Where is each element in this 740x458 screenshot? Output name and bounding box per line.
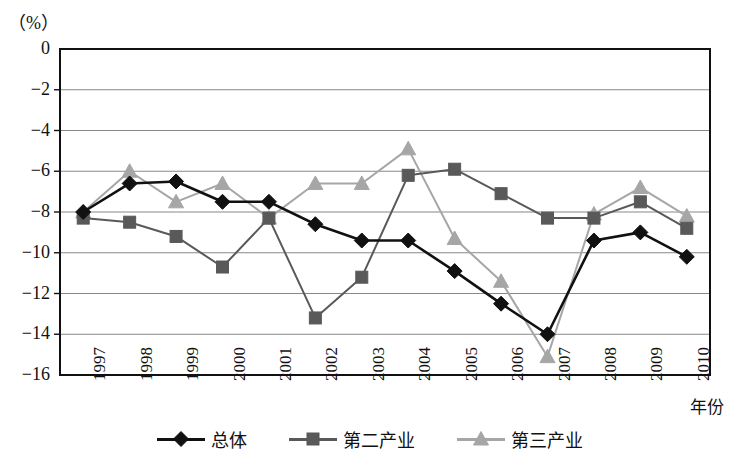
data-point-marker <box>122 176 137 191</box>
x-axis-title: 年份 <box>690 393 724 418</box>
data-point-marker <box>401 141 416 155</box>
data-point-marker <box>354 233 369 248</box>
square-marker <box>402 169 414 181</box>
triangle-marker <box>215 176 230 190</box>
triangle-marker <box>401 141 416 155</box>
x-axis-tick-label: 1999 <box>184 347 201 381</box>
square-marker <box>542 212 554 224</box>
x-axis-tick-label: 2010 <box>695 347 712 381</box>
data-point-marker <box>588 212 600 224</box>
data-point-marker <box>170 230 182 242</box>
data-point-marker <box>356 271 368 283</box>
x-axis-tick-label: 1997 <box>91 347 108 381</box>
square-marker <box>634 196 646 208</box>
square-marker <box>495 188 507 200</box>
triangle-marker <box>169 194 184 208</box>
diamond-marker <box>174 432 189 447</box>
legend-label: 总体 <box>209 426 247 452</box>
diamond-marker <box>633 225 648 240</box>
square-marker <box>170 230 182 242</box>
x-axis-tick-label: 2000 <box>231 347 248 381</box>
plot-area <box>0 0 740 458</box>
data-point-marker <box>447 231 462 245</box>
x-axis-tick-label: 2006 <box>509 347 526 381</box>
square-marker <box>124 216 136 228</box>
x-axis-tick-label: 2001 <box>277 347 294 381</box>
square-marker <box>681 222 693 234</box>
series-diamond <box>76 174 695 342</box>
data-point-marker <box>169 194 184 208</box>
x-axis-tick-label: 2005 <box>463 347 480 381</box>
data-point-marker <box>681 222 693 234</box>
data-point-marker <box>542 212 554 224</box>
square-marker <box>356 271 368 283</box>
triangle-marker <box>474 432 489 446</box>
data-point-marker <box>401 233 416 248</box>
triangle-marker <box>633 180 648 194</box>
legend-item[interactable]: 第三产业 <box>457 426 583 452</box>
legend-marker-swatch <box>473 431 489 447</box>
data-point-marker <box>261 194 276 209</box>
diamond-marker <box>308 217 323 232</box>
legend-diamond-icon <box>157 431 205 447</box>
x-axis-tick-label: 2004 <box>416 347 433 381</box>
data-point-marker <box>634 196 646 208</box>
data-point-marker <box>679 249 694 264</box>
data-point-marker <box>309 312 321 324</box>
data-point-marker <box>633 180 648 194</box>
diamond-marker <box>354 233 369 248</box>
x-axis-tick-label: 1998 <box>138 347 155 381</box>
data-point-marker <box>215 176 230 190</box>
data-point-marker <box>263 212 275 224</box>
square-marker <box>217 261 229 273</box>
triangle-marker <box>122 164 137 178</box>
data-point-marker <box>540 349 555 363</box>
legend-item[interactable]: 第二产业 <box>289 426 415 452</box>
square-marker <box>307 433 319 445</box>
diamond-marker <box>401 233 416 248</box>
data-point-marker <box>215 194 230 209</box>
chart-container: （%） 0−2−4−6−8−10−12−14−16 19971998199920… <box>0 0 740 458</box>
triangle-marker <box>447 231 462 245</box>
legend-item[interactable]: 总体 <box>157 426 247 452</box>
data-point-marker <box>174 432 189 447</box>
square-marker <box>588 212 600 224</box>
x-axis-tick-label: 2009 <box>648 347 665 381</box>
x-axis-tick-label: 2007 <box>556 347 573 381</box>
legend-square-icon <box>289 431 337 447</box>
data-point-marker <box>169 174 184 189</box>
data-point-marker <box>308 217 323 232</box>
legend-marker-swatch <box>305 431 321 447</box>
series-triangle <box>76 141 695 362</box>
x-axis-tick-label: 2003 <box>370 347 387 381</box>
diamond-marker <box>122 176 137 191</box>
data-point-marker <box>495 188 507 200</box>
diamond-marker <box>169 174 184 189</box>
series-square <box>77 163 693 324</box>
triangle-marker <box>540 349 555 363</box>
diamond-marker <box>679 249 694 264</box>
data-point-marker <box>586 233 601 248</box>
legend-triangle-icon <box>457 431 505 447</box>
square-marker <box>449 163 461 175</box>
chart-legend: 总体第二产业第三产业 <box>0 424 740 454</box>
data-point-marker <box>402 169 414 181</box>
square-marker <box>309 312 321 324</box>
data-point-marker <box>217 261 229 273</box>
diamond-marker <box>215 194 230 209</box>
data-point-marker <box>449 163 461 175</box>
data-point-marker <box>679 209 694 223</box>
legend-marker-swatch <box>173 431 189 447</box>
data-point-marker <box>474 432 489 446</box>
data-point-marker <box>633 225 648 240</box>
diamond-marker <box>586 233 601 248</box>
data-point-marker <box>307 433 319 445</box>
square-marker <box>263 212 275 224</box>
triangle-marker <box>679 209 694 223</box>
legend-label: 第二产业 <box>341 426 415 452</box>
x-axis-tick-label: 2002 <box>323 347 340 381</box>
data-point-marker <box>124 216 136 228</box>
legend-label: 第三产业 <box>509 426 583 452</box>
data-point-marker <box>122 164 137 178</box>
diamond-marker <box>261 194 276 209</box>
